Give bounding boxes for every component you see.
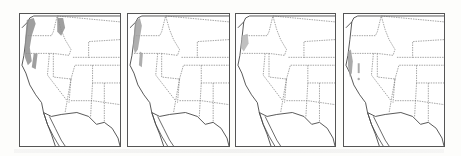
species-range-shading (133, 18, 143, 67)
range-map-panel-3 (235, 13, 336, 147)
species-range-shading (348, 49, 360, 80)
western-us-map (20, 14, 120, 146)
range-map-panel-2 (127, 13, 230, 147)
western-us-map (344, 14, 444, 146)
species-range-shading (241, 34, 249, 52)
range-map-panel-1 (19, 13, 121, 147)
western-us-map (128, 14, 229, 146)
species-range-shading (25, 18, 65, 69)
western-us-map (236, 14, 335, 146)
range-map-panel-4 (343, 13, 445, 147)
print-bleed-through (14, 149, 444, 153)
